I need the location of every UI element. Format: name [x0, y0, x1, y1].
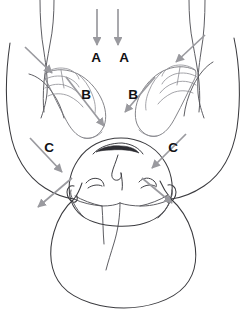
nose: [112, 155, 122, 180]
torso: [51, 199, 196, 308]
diagram-canvas: A A B B C C: [0, 0, 247, 309]
ear-left-inner: [71, 190, 73, 199]
hand-left: [45, 70, 106, 139]
hand-right-knuckles: [177, 67, 180, 85]
arrow-outward-right: [142, 178, 172, 203]
sternum-line: [106, 203, 120, 270]
label-b-left: B: [81, 87, 91, 102]
arm-left: [7, 43, 74, 199]
hand-left-group: [44, 68, 106, 138]
head-outline: [69, 138, 172, 226]
arrow-shoulder-left: [25, 47, 52, 73]
hand-right-group: [135, 65, 197, 136]
arrows-group: [25, 9, 205, 207]
hand-left-knuckles: [61, 70, 64, 88]
label-a-right: A: [119, 50, 129, 65]
hand-left-finger-2: [44, 76, 79, 87]
label-c-left: C: [44, 140, 54, 155]
label-c-right: C: [168, 140, 178, 155]
arm-right: [171, 38, 239, 199]
body-outline-group: [7, 0, 240, 308]
anatomical-diagram: A A B B C C: [0, 0, 247, 309]
hand-right-finger-2: [162, 73, 197, 84]
eye-left-crease: [88, 185, 102, 188]
label-a-left: A: [91, 50, 101, 65]
arm-right-inner: [198, 0, 205, 118]
nose-bridge: [121, 173, 122, 190]
jaw-left: [73, 202, 85, 218]
label-b-right: B: [128, 87, 138, 102]
